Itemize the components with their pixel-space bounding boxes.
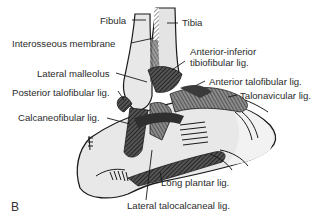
label-lateral-malleolus: Lateral malleolus (37, 68, 110, 79)
label-anterior-inferior-tibiofibular-lig-line1: Anterior-inferior (190, 46, 256, 57)
panel-letter: B (11, 200, 19, 214)
ankle-ligament-diagram: Fibula Tibia Interosseous membrane Anter… (0, 0, 319, 219)
label-long-plantar-lig: Long plantar lig. (161, 177, 229, 188)
label-anterior-inferior-tibiofibular-lig-line2: tibiofibular lig. (190, 57, 249, 68)
label-posterior-talofibular-lig: Posterior talofibular lig. (12, 87, 110, 98)
label-tibia: Tibia (182, 17, 202, 28)
label-fibula: Fibula (100, 15, 126, 26)
ankle-illustration (0, 0, 319, 219)
label-lateral-talocalcaneal-lig: Lateral talocalcaneal lig. (127, 200, 230, 211)
label-anterior-talofibular-lig: Anterior talofibular lig. (209, 76, 302, 87)
label-calcaneofibular-lig: Calcaneofibular lig. (18, 112, 100, 123)
label-talonavicular-lig: Talonavicular lig. (240, 90, 311, 101)
label-interosseous-membrane: Interosseous membrane (12, 38, 115, 49)
